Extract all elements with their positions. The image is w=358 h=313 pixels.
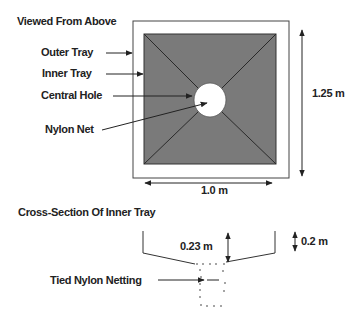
label-central-hole: Central Hole: [41, 89, 102, 101]
central-hole: [194, 83, 226, 117]
diagram-canvas: Viewed From Above Outer Tray Inner Tray …: [0, 0, 358, 313]
cross-section-right-wall: [226, 231, 275, 262]
depth-inner-label: 0.23 m: [180, 240, 213, 252]
label-nylon-net: Nylon Net: [45, 123, 94, 135]
height-dimension-label: 1.25 m: [312, 87, 345, 99]
label-inner-tray: Inner Tray: [42, 67, 93, 79]
tied-nylon-netting: [196, 263, 226, 307]
label-outer-tray: Outer Tray: [41, 46, 94, 58]
cross-section-title: Cross-Section Of Inner Tray: [18, 206, 157, 218]
label-tied-nylon-netting: Tied Nylon Netting: [50, 274, 142, 286]
top-view-title: Viewed From Above: [17, 15, 117, 27]
depth-side-label: 0.2 m: [301, 235, 328, 247]
width-dimension-label: 1.0 m: [201, 184, 228, 196]
